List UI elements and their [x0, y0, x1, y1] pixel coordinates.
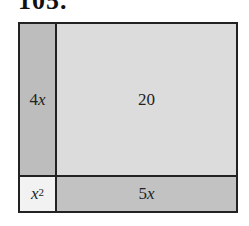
cell-5x: 5x	[57, 175, 236, 211]
cell-20: 20	[57, 24, 236, 175]
cell-x2-exponent: 2	[39, 186, 45, 198]
cell-4x: 4x	[20, 24, 57, 175]
cell-5x-var: x	[147, 184, 155, 204]
cell-x2-var: x	[31, 184, 39, 204]
cell-5x-coef: 5	[138, 184, 147, 204]
cell-x-squared: x2	[20, 175, 57, 211]
cell-4x-var: x	[38, 90, 46, 110]
cell-20-value: 20	[138, 90, 155, 110]
problem-number: 105.	[18, 0, 68, 16]
area-model-rectangle: 4x 20 x2 5x	[18, 22, 238, 213]
cell-4x-coef: 4	[29, 90, 38, 110]
